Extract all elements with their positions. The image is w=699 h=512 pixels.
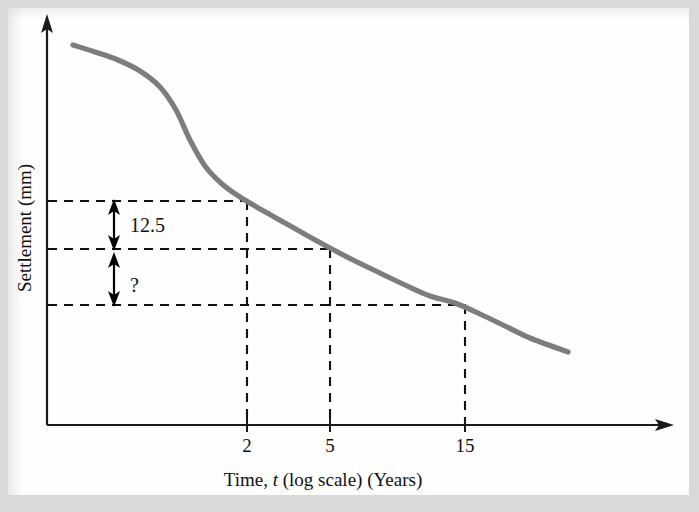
dimension-arrow-unknown (108, 252, 120, 307)
x-axis-title: Time, t (log scale) (Years) (224, 469, 422, 491)
settlement-log-time-figure: 12.5 ? 2 5 15 Time, t (log scale) (Years… (0, 0, 699, 512)
dimension-arrow-12-5 (108, 199, 120, 251)
y-axis-title: Settlement (mm) (14, 164, 36, 292)
annotation-label-unknown: ? (130, 274, 139, 296)
guide-lines-group (48, 201, 466, 424)
annotation-label-12-5: 12.5 (130, 214, 165, 236)
x-axis-title-part-before: Time, (224, 469, 273, 490)
x-tick-label-15: 15 (456, 435, 475, 456)
chart-canvas: 12.5 ? 2 5 15 Time, t (log scale) (Years… (0, 0, 699, 512)
x-axis-title-part-after: (log scale) (Years) (278, 469, 422, 491)
x-tick-label-2: 2 (242, 435, 252, 456)
x-tick-label-5: 5 (325, 435, 335, 456)
